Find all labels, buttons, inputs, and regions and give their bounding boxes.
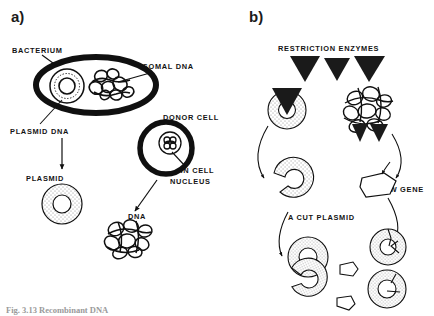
- arrow-dna-to-new-gene: [392, 134, 401, 178]
- gene-fragment-1: [340, 262, 358, 276]
- cut-plasmid-icon: [274, 157, 314, 197]
- restriction-enzyme-triangle-1: [290, 56, 320, 82]
- figure-recombinant-dna: a) b) BACTERIUM CHROMOSOMAL DNA PLASMID …: [0, 0, 434, 316]
- donor-cell-nucleus-icon: [159, 132, 181, 154]
- recombinant-plasmid-icon-1: [370, 229, 406, 265]
- arrow-to-new-gene-shape: [382, 162, 390, 174]
- bacterium-membrane-icon: [36, 57, 156, 113]
- free-dna-tangle-icon: [102, 218, 154, 261]
- restriction-enzyme-icons: [290, 56, 385, 82]
- figure-caption: Fig. 3.13 Recombinant DNA: [6, 305, 306, 316]
- bacterium-cell: [36, 57, 156, 113]
- arrow-cut-plasmid-to-mixture: [279, 212, 288, 256]
- recombinant-plasmid-icon-2: [368, 270, 406, 308]
- restriction-enzyme-triangle-cutting-dna-1: [352, 124, 368, 142]
- gene-fragment-icons: [337, 262, 358, 310]
- donor-cell: [140, 122, 192, 174]
- arrow-donor-cell-to-dna: [135, 180, 157, 211]
- donor-dna-being-cut: [341, 85, 393, 142]
- restriction-enzyme-triangle-2: [324, 58, 350, 81]
- arrow-plasmid-to-cut-plasmid: [258, 126, 268, 178]
- new-gene-fragment-icon: [360, 173, 396, 197]
- plasmid-being-cut: [268, 88, 306, 129]
- restriction-enzyme-triangle-cutting-dna-2: [370, 124, 388, 142]
- isolated-plasmid-icon: [42, 184, 82, 224]
- gene-fragment-2: [337, 296, 355, 310]
- diagram-vector-layer: [0, 0, 434, 316]
- restriction-enzyme-triangle-3: [354, 56, 385, 82]
